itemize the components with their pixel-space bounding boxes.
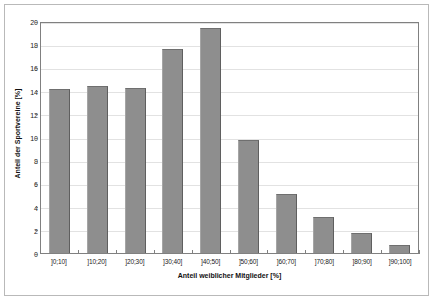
y-axis-tick-mark	[35, 68, 38, 69]
plot-area	[40, 22, 419, 254]
x-axis-tick-mark	[381, 250, 382, 254]
y-axis-tick-mark	[35, 254, 38, 255]
x-axis-tick-label: ]60;70]	[267, 258, 305, 265]
bar-slot	[192, 23, 230, 253]
x-axis-tick-mark	[305, 250, 306, 254]
x-axis-tick-labels: ]0;10]]10;20]]20;30]]30;40]]40;50]]50;60…	[40, 258, 419, 265]
x-axis-tick-label: ]20;30]	[116, 258, 154, 265]
x-axis-tick-mark	[419, 250, 420, 254]
bar	[125, 88, 146, 253]
y-axis-tick-mark	[35, 230, 38, 231]
y-axis-tick-mark	[35, 22, 38, 23]
bar-slot	[380, 23, 418, 253]
x-axis-tick-mark	[230, 250, 231, 254]
x-axis-tick-label: ]70;80]	[305, 258, 343, 265]
bar	[200, 28, 221, 253]
x-axis-tick-mark	[343, 250, 344, 254]
x-axis-tick-label: ]30;40]	[154, 258, 192, 265]
bar-slot	[79, 23, 117, 253]
y-axis-tick-mark	[35, 45, 38, 46]
y-axis-tick-mark	[35, 161, 38, 162]
bar	[162, 49, 183, 253]
x-axis-tick-label: ]0;10]	[40, 258, 78, 265]
x-axis-tick-mark	[192, 250, 193, 254]
bar-slot	[230, 23, 268, 253]
x-axis-tick-mark	[154, 250, 155, 254]
bar-slot	[343, 23, 381, 253]
bar	[49, 89, 70, 253]
x-axis-tick-label: ]50;60]	[230, 258, 268, 265]
x-axis-tick-label: ]80;90]	[343, 258, 381, 265]
y-axis-tick-mark	[35, 91, 38, 92]
chart-figure: 02468101214161820 ]0;10]]10;20]]20;30]]3…	[0, 0, 433, 300]
x-axis-tick-mark	[267, 250, 268, 254]
y-axis-tick-mark	[35, 184, 38, 185]
x-axis-tick-marks	[40, 248, 419, 254]
bar-slot	[267, 23, 305, 253]
bar	[87, 86, 108, 253]
x-axis-tick-label: ]40;50]	[192, 258, 230, 265]
x-axis-tick-mark	[40, 250, 41, 254]
bar-slot	[41, 23, 79, 253]
bar-series	[41, 23, 418, 253]
y-axis-tick-mark	[35, 138, 38, 139]
y-axis-tick-labels: 02468101214161820	[8, 22, 38, 254]
bar-slot	[116, 23, 154, 253]
x-axis-title: Anteil weiblicher Mitglieder [%]	[40, 272, 419, 279]
x-axis-tick-label: ]90;100]	[381, 258, 419, 265]
y-axis-tick-mark	[35, 207, 38, 208]
bar-slot	[305, 23, 343, 253]
y-axis-title: Anteil der Sportvereine [%]	[14, 54, 21, 214]
bar-slot	[154, 23, 192, 253]
bar	[238, 140, 259, 253]
x-axis-tick-mark	[78, 250, 79, 254]
x-axis-tick-mark	[116, 250, 117, 254]
bar	[276, 194, 297, 253]
x-axis-tick-label: ]10;20]	[78, 258, 116, 265]
y-axis-tick-mark	[35, 114, 38, 115]
